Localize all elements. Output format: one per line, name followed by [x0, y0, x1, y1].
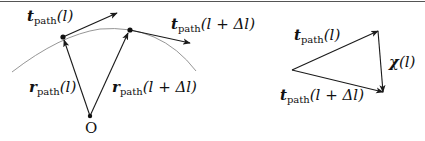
point-l-dl	[127, 27, 132, 32]
label-triangle-t-path-l: tpath(l)	[294, 28, 340, 45]
label-triangle-t-path-l-dl: tpath(l + Δl)	[280, 88, 364, 105]
triangle-chi	[378, 31, 383, 92]
point-l	[60, 34, 65, 39]
path-curve	[12, 29, 196, 72]
label-t-path-l: tpath(l)	[27, 9, 73, 26]
label-chi-l: χ(l)	[389, 55, 415, 70]
position-vector-r-l-dl	[90, 33, 128, 116]
origin-point	[88, 114, 92, 118]
label-r-path-l: rpath(l)	[29, 80, 76, 97]
label-origin: O	[85, 121, 97, 136]
label-t-path-l-dl: tpath(l + Δl)	[171, 17, 255, 34]
label-r-path-l-dl: rpath(l + Δl)	[112, 80, 197, 97]
